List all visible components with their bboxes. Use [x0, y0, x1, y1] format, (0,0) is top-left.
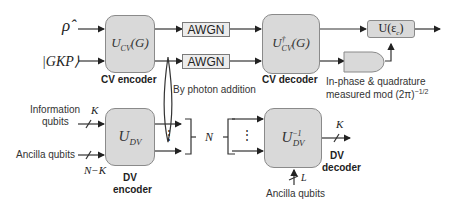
awgn-box-bottom: AWGN	[182, 54, 230, 69]
dv-encoder-dots: ⋮	[163, 128, 175, 142]
dv-encoder-label-line2: encoder	[113, 184, 152, 195]
cv-decoder-box: U†CV(G)	[262, 14, 320, 74]
cv-decoder-label: CV decoder	[262, 74, 318, 85]
awgn-box-top: AWGN	[182, 22, 230, 37]
dv-encoder-box: UDV	[105, 108, 155, 166]
dv-decoder-box: U−1DV	[264, 108, 322, 168]
measurement-label-line2: measured mod (2π)−1/2	[326, 88, 428, 100]
dv-decoder-operator: U−1DV	[281, 129, 304, 148]
rho-input-label: ρ̂	[62, 16, 70, 36]
info-qubits-label-line2: qubits	[42, 116, 69, 127]
measurement-label-line1: In-phase & quadrature	[326, 76, 426, 87]
dv-decoder-ancilla-count: L	[301, 172, 307, 183]
cv-encoder-box: UCV(G)	[105, 15, 155, 73]
cv-decoder-operator: U†CV(G)	[272, 35, 310, 53]
dv-decoder-label-line2: decoder	[322, 162, 361, 173]
info-qubits-count: K	[91, 104, 98, 116]
gkp-input-label: |GKP⟩	[42, 53, 79, 70]
correction-box: U(εc)	[367, 20, 415, 38]
dv-decoder-dots: ⋮	[241, 128, 253, 142]
dv-ancilla-label: Ancilla qubits	[16, 149, 75, 160]
dv-decoder-ancilla-label: Ancilla qubits	[266, 188, 325, 199]
dv-encoder-operator: UDV	[119, 128, 142, 147]
dv-encoder-label-line1: DV	[123, 172, 137, 183]
measurement-gate-shape	[344, 52, 384, 72]
photon-addition-label: By photon addition	[173, 84, 256, 95]
bundle-n-label: N	[205, 130, 213, 145]
cv-encoder-operator: UCV(G)	[111, 35, 149, 53]
dv-decoder-output-count: K	[336, 118, 343, 130]
cv-encoder-label: CV encoder	[101, 74, 157, 85]
dv-ancilla-count: N−K	[84, 164, 106, 176]
correction-label: U(εc)	[379, 21, 404, 37]
dv-decoder-label-line1: DV	[330, 150, 344, 161]
info-qubits-label-line1: Information	[30, 104, 80, 115]
